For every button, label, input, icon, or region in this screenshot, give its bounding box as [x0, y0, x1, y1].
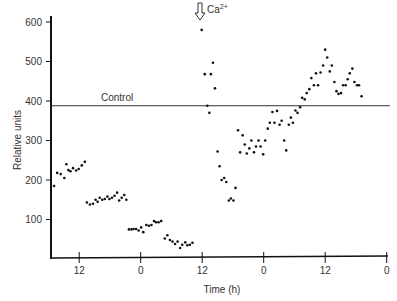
data-point [118, 199, 121, 202]
data-point [237, 129, 240, 132]
data-point [241, 134, 244, 137]
data-point [324, 48, 327, 51]
data-point [305, 92, 308, 95]
data-point [128, 228, 131, 231]
data-point [140, 226, 143, 229]
data-point [116, 191, 119, 194]
data-point [208, 112, 211, 115]
x-tick-label: 0 [138, 265, 144, 276]
data-point [360, 95, 363, 98]
x-axis [51, 256, 388, 258]
ca-label: Ca2+ [207, 3, 228, 15]
data-point [342, 84, 345, 87]
control-label: Control [101, 92, 133, 103]
data-point [257, 139, 260, 142]
data-point [348, 72, 351, 75]
data-point [292, 121, 295, 124]
x-tick-label: 0 [384, 265, 390, 276]
y-axis-title: Relative units [12, 110, 23, 170]
data-point [319, 71, 322, 74]
scatter-chart: 100200300400500600 120120120 Control Ca2… [0, 0, 397, 301]
data-point [155, 221, 158, 224]
data-point [84, 161, 87, 164]
data-point [56, 172, 59, 175]
data-point [92, 202, 95, 205]
data-point [245, 152, 248, 155]
data-point [96, 200, 99, 203]
data-point [317, 84, 320, 87]
data-point [203, 73, 206, 76]
data-point [101, 198, 104, 201]
data-point [280, 119, 283, 122]
data-point [273, 121, 276, 124]
data-point [123, 194, 126, 197]
data-point [59, 173, 62, 176]
data-point [86, 201, 89, 204]
data-point [266, 127, 269, 130]
data-point [243, 143, 246, 146]
data-point [89, 203, 92, 206]
data-point [271, 111, 274, 114]
data-point [301, 97, 304, 100]
data-point [106, 195, 109, 198]
data-point [248, 147, 251, 150]
data-point [232, 199, 235, 202]
data-point [269, 121, 272, 124]
data-point [212, 61, 215, 64]
data-point [113, 195, 116, 198]
data-point [216, 150, 219, 153]
data-point [94, 198, 97, 201]
data-point [288, 123, 291, 126]
data-point [186, 244, 189, 247]
down-arrow-icon [195, 3, 205, 20]
y-axis-ticks: 100200300400500600 [25, 17, 51, 226]
data-point [163, 237, 166, 240]
data-point [135, 228, 138, 231]
data-point [296, 112, 299, 115]
data-point [169, 239, 172, 242]
data-point [104, 198, 107, 201]
data-points [53, 29, 363, 250]
data-point [72, 167, 75, 170]
data-point [340, 92, 343, 95]
data-point [176, 240, 179, 243]
data-point [69, 170, 72, 173]
data-point [315, 72, 318, 75]
y-tick-label: 600 [25, 17, 42, 28]
data-point [234, 187, 237, 190]
data-point [77, 168, 80, 171]
data-point [157, 221, 160, 224]
data-point [230, 197, 233, 200]
data-point [125, 198, 128, 201]
x-axis-ticks: 120120120 [74, 252, 390, 276]
data-point [264, 139, 267, 142]
x-tick-label: 12 [74, 265, 86, 276]
data-point [262, 153, 265, 156]
data-point [210, 73, 213, 76]
data-point [239, 151, 242, 154]
data-point [329, 70, 332, 73]
data-point [108, 198, 111, 201]
data-point [358, 84, 361, 87]
data-point [303, 98, 306, 101]
data-point [308, 88, 311, 91]
data-point [259, 145, 262, 148]
data-point [218, 165, 221, 168]
data-point [326, 56, 329, 59]
x-tick-label: 12 [320, 265, 332, 276]
data-point [290, 116, 293, 119]
x-tick-label: 12 [197, 265, 209, 276]
data-point [220, 179, 223, 182]
data-point [299, 106, 302, 109]
y-tick-label: 100 [25, 214, 42, 225]
y-tick-label: 300 [25, 135, 42, 146]
data-point [346, 78, 349, 81]
data-point [337, 93, 340, 96]
data-point [310, 77, 313, 80]
data-point [53, 185, 56, 188]
data-point [351, 67, 354, 70]
data-point [174, 243, 177, 246]
data-point [313, 84, 316, 87]
y-tick-label: 200 [25, 175, 42, 186]
data-point [255, 145, 258, 148]
